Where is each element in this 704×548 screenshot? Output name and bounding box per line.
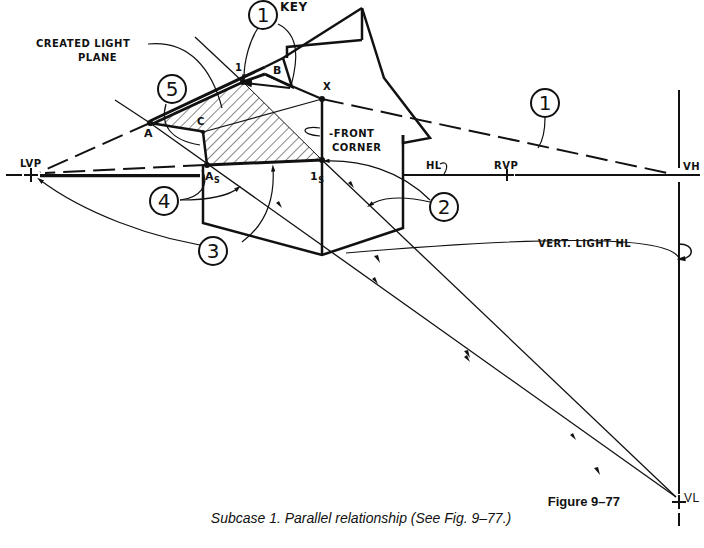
vh-label: VH xyxy=(683,161,700,172)
vl-label: VL xyxy=(684,491,700,505)
figure-caption: Subcase 1. Parallel relationship (See Fi… xyxy=(0,510,704,526)
point-x-label: X xyxy=(323,81,331,92)
front-corner-label-2: CORNER xyxy=(332,142,381,153)
hl-label: HL xyxy=(426,160,442,171)
callout-1-ray: 1 xyxy=(530,88,560,118)
figure-number: Figure 9–77 xyxy=(0,494,620,509)
callout-2: 2 xyxy=(429,192,459,222)
point-1-label: 1 xyxy=(235,62,242,73)
callout-5: 5 xyxy=(157,74,187,104)
leader-curves xyxy=(40,24,679,258)
created-light-plane-label-2: PLANE xyxy=(78,52,117,63)
point-b-label: B xyxy=(273,64,282,77)
callout-4: 4 xyxy=(149,186,179,216)
rvp-label: RVP xyxy=(494,160,518,171)
created-light-plane-label-1: CREATED LIGHT xyxy=(36,38,130,49)
lvp-marker xyxy=(24,168,38,182)
vert-light-hl-label: VERT. LIGHT HL xyxy=(538,238,631,249)
point-a-s-label: AS xyxy=(205,170,220,185)
point-1-s-label: 1S xyxy=(310,170,324,185)
callout-1-key: 1 xyxy=(248,0,278,30)
vertical-light-line xyxy=(672,90,686,526)
point-c-label: C xyxy=(197,116,205,127)
callout-3: 3 xyxy=(198,236,228,266)
perspective-shadow-diagram xyxy=(0,0,704,548)
lvp-label: LVP xyxy=(20,158,42,169)
front-corner-label-1: -FRONT xyxy=(329,128,374,139)
vert-light-hl-hook xyxy=(679,244,691,259)
key-label: KEY xyxy=(280,0,308,14)
point-a-label: A xyxy=(144,127,153,140)
